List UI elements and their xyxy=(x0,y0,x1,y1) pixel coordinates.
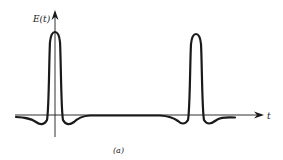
waveform-curve xyxy=(16,32,235,124)
y-axis-label: E(t) xyxy=(32,14,51,24)
figure-caption: (a) xyxy=(113,146,124,155)
pulse-train-diagram: E(t) t (a) xyxy=(0,0,283,160)
x-axis-label: t xyxy=(267,111,271,121)
